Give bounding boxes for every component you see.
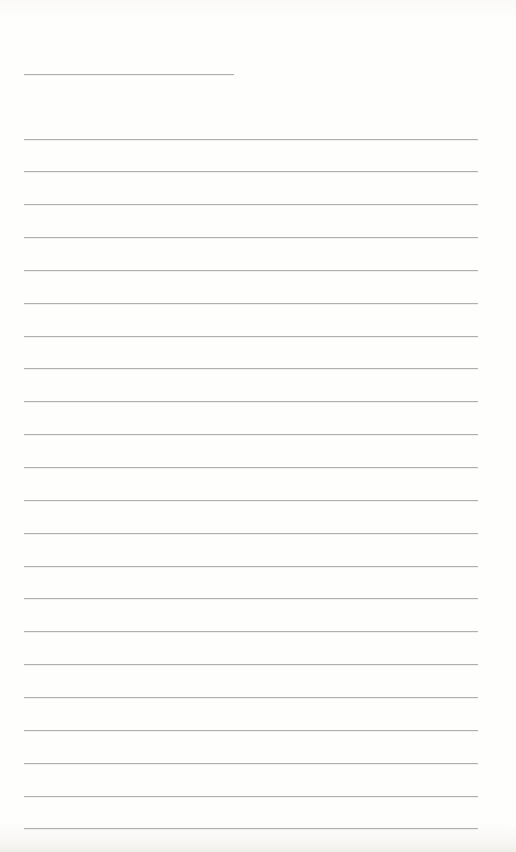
rule-line	[24, 796, 478, 797]
rule-line	[24, 171, 478, 172]
rule-line	[24, 434, 478, 435]
rule-line	[24, 336, 478, 337]
rule-line	[24, 500, 478, 501]
rule-line	[24, 204, 478, 205]
rule-line	[24, 368, 478, 369]
rule-line	[24, 631, 478, 632]
rule-line	[24, 763, 478, 764]
title-blank-line	[24, 74, 234, 75]
rule-line	[24, 533, 478, 534]
rule-line	[24, 270, 478, 271]
rule-line	[24, 730, 478, 731]
rule-line	[24, 664, 478, 665]
rule-line	[24, 237, 478, 238]
rule-line	[24, 598, 478, 599]
rule-line	[24, 401, 478, 402]
rule-line	[24, 303, 478, 304]
rule-line	[24, 566, 478, 567]
rule-line	[24, 467, 478, 468]
rule-line	[24, 828, 478, 829]
rule-line	[24, 139, 478, 140]
rule-line	[24, 697, 478, 698]
notebook-page	[0, 0, 516, 852]
